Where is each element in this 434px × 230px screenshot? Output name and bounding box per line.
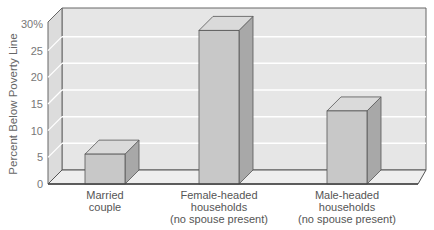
side-wall — [48, 8, 62, 184]
y-tick-label: 5 — [37, 151, 43, 163]
bar — [199, 16, 253, 184]
bar-front — [199, 30, 239, 184]
bar — [85, 140, 139, 184]
bar-side — [239, 16, 253, 184]
bar-front — [85, 154, 125, 184]
x-category-label: Married — [86, 189, 123, 201]
y-tick-label: 25 — [31, 45, 43, 57]
x-category-label: couple — [89, 201, 121, 213]
bar-side — [367, 97, 381, 184]
x-category-label: households — [191, 201, 248, 213]
chart-canvas: 051015202530% Percent Below Poverty Line… — [0, 0, 434, 230]
y-tick-label: 20 — [31, 71, 43, 83]
x-category-label: (no spouse present) — [170, 213, 268, 225]
bar-front — [327, 111, 367, 184]
y-axis-ticks: 051015202530% — [21, 18, 43, 190]
y-tick-label: 30% — [21, 18, 43, 30]
y-tick-label: 10 — [31, 125, 43, 137]
y-tick-label: 15 — [31, 98, 43, 110]
x-category-label: households — [319, 201, 376, 213]
x-category-label: Female-headed — [180, 189, 257, 201]
x-category-label: Male-headed — [315, 189, 379, 201]
bar — [327, 97, 381, 184]
x-axis-categories: MarriedcoupleFemale-headedhouseholds(no … — [86, 189, 396, 225]
x-category-label: (no spouse present) — [298, 213, 396, 225]
y-tick-label: 0 — [37, 178, 43, 190]
y-axis-label: Percent Below Poverty Line — [7, 33, 19, 174]
bar-chart: 051015202530% Percent Below Poverty Line… — [0, 0, 434, 230]
